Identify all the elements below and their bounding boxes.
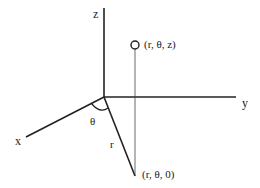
theta-label: θ [90, 115, 95, 127]
diagram-canvas: z y x (r, θ, z) (r, θ, 0) θ r [0, 0, 260, 188]
y-axis-label: y [242, 96, 248, 110]
projection-label: (r, θ, 0) [142, 168, 175, 181]
radius-line [104, 97, 135, 176]
z-axis-label: z [93, 7, 98, 21]
radius-label: r [110, 138, 114, 150]
point-label: (r, θ, z) [144, 38, 176, 51]
point-marker-icon [131, 41, 139, 49]
x-axis-label: x [15, 134, 21, 148]
cylindrical-coordinates-diagram: z y x (r, θ, z) (r, θ, 0) θ r [0, 0, 260, 188]
theta-arc [92, 104, 109, 111]
